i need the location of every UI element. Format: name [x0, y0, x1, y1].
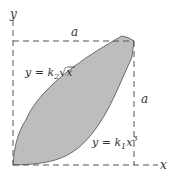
- lower-curve-label-superscript: 3: [132, 134, 137, 143]
- upper-curve-label-suffix: √x: [59, 66, 73, 79]
- lower-curve-label: y = k1x3: [91, 134, 138, 151]
- diagram-figure: y x a a y = k2√x y = k1x3: [0, 0, 176, 179]
- lower-curve-label-prefix: y = k: [91, 136, 121, 149]
- top-dimension-label: a: [71, 25, 78, 39]
- right-dimension-label: a: [141, 92, 148, 106]
- upper-curve-label: y = k2√x: [24, 66, 73, 81]
- y-axis-label: y: [9, 7, 17, 21]
- x-axis-label: x: [160, 158, 167, 172]
- upper-curve-label-prefix: y = k: [24, 66, 54, 79]
- diagram-svg: y x a a y = k2√x y = k1x3: [0, 0, 176, 179]
